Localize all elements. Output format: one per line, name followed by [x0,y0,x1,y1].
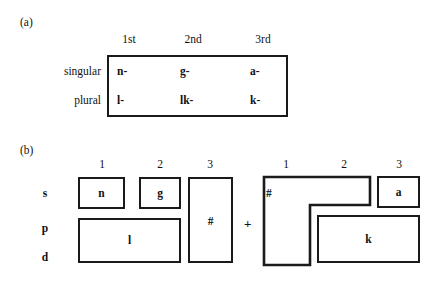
panel-a-cell-singular-2: g- [180,66,190,78]
panel-a-cell-plural-1: l- [117,95,124,107]
figure-container: (a) 1st 2nd 3rd singular plural n- g- a-… [0,0,437,281]
panel-b-right-column-header-2: 2 [323,159,365,171]
panel-a-row-label-plural: plural [20,95,101,107]
panel-b-hash-tall-box-label: # [188,216,233,228]
panel-a-table-box [107,55,288,117]
panel-a-cell-plural-2: lk- [180,95,193,107]
panel-a-cell-singular-3: a- [250,66,260,78]
panel-b-plus-operator: + [244,217,251,230]
panel-b-n-box-label: n [78,188,125,200]
panel-b-left-column-header-3: 3 [189,159,231,171]
panel-b-k-box-label: k [317,234,420,246]
panel-b-right-column-header-3: 3 [378,159,420,171]
panel-b-row-label-s: s [35,188,55,200]
panel-b-l-box-label: l [78,235,181,247]
panel-a-column-header-2: 2nd [172,34,214,46]
panel-a-label: (a) [20,17,33,29]
panel-a-cell-plural-3: k- [250,95,260,107]
panel-b-hash-lshape-box-label: # [266,188,296,200]
panel-b-row-label-d: d [35,252,55,264]
panel-a-cell-singular-1: n- [117,66,127,78]
panel-b-a-box-label: a [377,187,420,199]
panel-b-row-label-p: p [35,223,55,235]
panel-b-left-column-header-1: 1 [81,159,123,171]
panel-b-right-column-header-1: 1 [265,159,307,171]
panel-b-label: (b) [20,145,33,157]
panel-a-column-header-3: 3rd [242,34,284,46]
panel-a-column-header-1: 1st [108,34,150,46]
panel-b-left-column-header-2: 2 [139,159,181,171]
panel-a-row-label-singular: singular [20,66,101,78]
panel-b-g-box-label: g [139,188,181,200]
